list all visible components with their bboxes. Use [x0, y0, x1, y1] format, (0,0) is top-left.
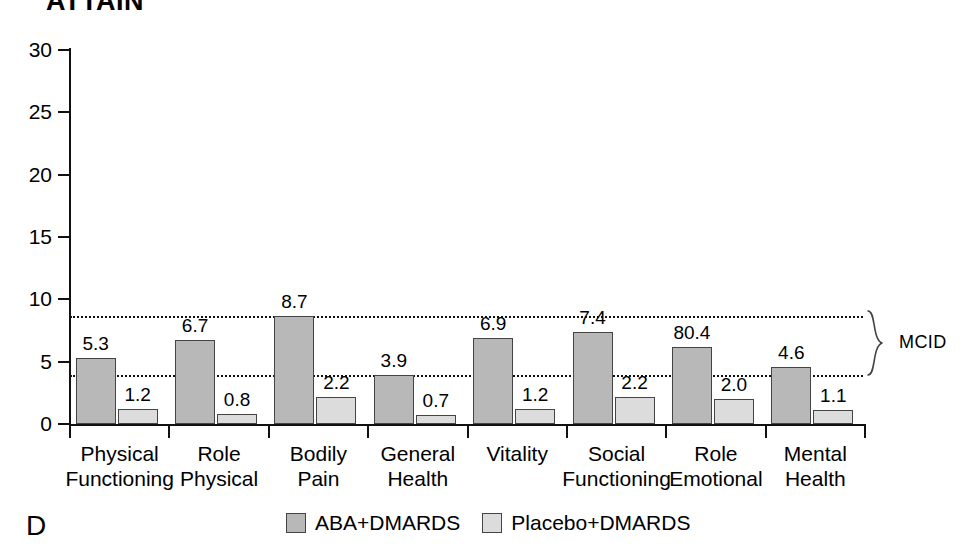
bar: [714, 399, 754, 424]
y-axis-tick: [58, 361, 70, 363]
bar: [515, 409, 555, 424]
category-label-line: Health: [354, 466, 481, 491]
y-axis-tick-label: 20: [8, 164, 52, 185]
mcid-label: MCID: [899, 333, 947, 351]
y-axis-tick-label: 10: [8, 288, 52, 309]
legend-item: Placebo+DMARDS: [482, 512, 690, 533]
y-axis-tick-label: 25: [8, 101, 52, 122]
bar-value-label: 2.2: [299, 373, 373, 392]
y-axis-tick-label: 15: [8, 226, 52, 247]
bar: [416, 415, 456, 424]
bar: [615, 397, 655, 424]
bar-value-label: 4.6: [754, 343, 828, 362]
bar: [175, 340, 215, 424]
y-axis-tick: [58, 174, 70, 176]
y-axis-tick: [58, 49, 70, 51]
chart-title: ATTAIN: [46, 0, 144, 16]
bar: [217, 414, 257, 424]
legend-label: Placebo+DMARDS: [511, 512, 690, 533]
bar: [118, 409, 158, 424]
bar-value-label: 2.2: [598, 373, 672, 392]
bar-value-label: 1.1: [796, 386, 870, 405]
x-axis-tick: [467, 425, 469, 438]
x-axis-tick: [566, 425, 568, 438]
bar-value-label: 2.0: [697, 375, 771, 394]
bar-value-label: 1.2: [101, 385, 175, 404]
x-axis-tick: [864, 425, 866, 438]
legend-swatch: [286, 513, 306, 533]
bar: [813, 410, 853, 424]
legend-label: ABA+DMARDS: [315, 512, 460, 533]
x-axis-tick: [268, 425, 270, 438]
bar-value-label: 6.9: [456, 314, 530, 333]
bar: [316, 397, 356, 424]
bar-value-label: 6.7: [158, 316, 232, 335]
x-axis-tick: [765, 425, 767, 438]
x-axis-tick: [69, 425, 71, 438]
chart-legend: ABA+DMARDSPlacebo+DMARDS: [286, 512, 690, 533]
x-axis-category-label: MentalHealth: [752, 441, 879, 491]
legend-swatch: [482, 513, 502, 533]
bar-value-label: 8.7: [257, 292, 331, 311]
chart-figure: ATTAIN 051015202530 5.31.26.70.88.72.23.…: [0, 0, 962, 560]
bar-value-label: 1.2: [498, 385, 572, 404]
panel-letter: D: [26, 512, 46, 540]
x-axis-tick: [367, 425, 369, 438]
bar-value-label: 3.9: [357, 351, 431, 370]
y-axis-tick: [58, 298, 70, 300]
y-axis-tick: [58, 236, 70, 238]
y-axis-tick-label: 0: [8, 413, 52, 434]
bar-value-label: 80.4: [655, 323, 729, 342]
y-axis-tick-label: 30: [8, 39, 52, 60]
y-axis-tick-label: 5: [8, 351, 52, 372]
legend-item: ABA+DMARDS: [286, 512, 460, 533]
bar-value-label: 7.4: [556, 308, 630, 327]
bar: [473, 338, 513, 424]
mcid-bracket-icon: [866, 309, 892, 377]
y-axis-tick: [58, 111, 70, 113]
x-axis-tick: [665, 425, 667, 438]
x-axis-tick: [168, 425, 170, 438]
bar-value-label: 0.8: [200, 390, 274, 409]
bar-value-label: 0.7: [399, 391, 473, 410]
category-label-line: Health: [752, 466, 879, 491]
category-label-line: Mental: [752, 441, 879, 466]
bar-value-label: 5.3: [59, 334, 133, 353]
bar: [274, 316, 314, 424]
